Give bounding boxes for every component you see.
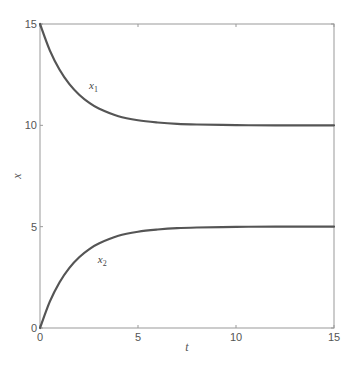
x-tick-label: 0 <box>37 331 43 343</box>
x-axis-label: t <box>185 340 189 354</box>
x-tick-label: 15 <box>328 331 340 343</box>
x-tick-label: 10 <box>230 331 242 343</box>
y-tick-label: 0 <box>31 322 37 334</box>
line-chart: 051015051015 t x x1x2 <box>0 0 355 367</box>
y-tick-label: 5 <box>31 221 37 233</box>
plot-area-frame <box>40 24 334 328</box>
x-tick-label: 5 <box>135 331 141 343</box>
y-tick-label: 10 <box>25 119 37 131</box>
y-tick-label: 15 <box>25 18 37 30</box>
y-axis-label: x <box>10 173 24 180</box>
